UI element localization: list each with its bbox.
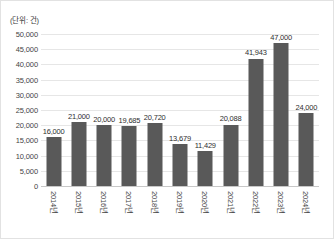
- y-axis-tick-label: 10,000: [4, 151, 38, 160]
- bar-value-label: 24,000: [295, 103, 317, 112]
- unit-label: (단위: 건): [10, 14, 39, 25]
- bar-slot: 20,088: [218, 34, 243, 186]
- bar-value-label: 47,000: [270, 33, 292, 42]
- bar-slot: 20,720: [142, 34, 167, 186]
- y-axis-tick-label: 50,000: [4, 30, 38, 39]
- x-axis-tick-label: 2015년: [73, 191, 84, 214]
- plot-area: 16,00021,00020,00019,68520,72013,67911,4…: [41, 34, 319, 186]
- y-axis-tick-label: 45,000: [4, 45, 38, 54]
- bar-slot: 19,685: [117, 34, 142, 186]
- x-tick-slot: 2021년: [218, 187, 243, 239]
- x-tick-slot: 2022년: [243, 187, 268, 239]
- bar-slot: 21,000: [66, 34, 91, 186]
- bar-value-label: 21,000: [68, 112, 90, 121]
- x-axis-tick-label: 2014년: [48, 191, 59, 214]
- x-tick-slot: 2014년: [41, 187, 66, 239]
- y-axis-tick-label: 20,000: [4, 121, 38, 130]
- x-tick-slot: 2024년: [294, 187, 319, 239]
- bar-value-label: 16,000: [43, 127, 65, 136]
- y-axis-tick-label: 30,000: [4, 90, 38, 99]
- bar-value-label: 13,679: [169, 134, 191, 143]
- bar[interactable]: [299, 113, 314, 186]
- bar[interactable]: [172, 144, 187, 186]
- x-axis-tick-label: 2016년: [99, 191, 110, 214]
- y-axis-tick-label: 40,000: [4, 60, 38, 69]
- bar-slot: 24,000: [294, 34, 319, 186]
- bar[interactable]: [223, 125, 238, 186]
- x-tick-slot: 2018년: [142, 187, 167, 239]
- x-tick-slot: 2019년: [167, 187, 192, 239]
- bar[interactable]: [274, 43, 289, 186]
- y-axis: 05,00010,00015,00020,00025,00030,00035,0…: [1, 34, 38, 186]
- x-axis-tick-label: 2018년: [149, 191, 160, 214]
- x-tick-slot: 2016년: [92, 187, 117, 239]
- y-axis-tick-label: 5,000: [4, 166, 38, 175]
- bar-value-label: 20,000: [93, 115, 115, 124]
- bar-value-label: 11,429: [195, 141, 216, 150]
- bar[interactable]: [248, 59, 263, 187]
- x-axis-tick-label: 2021년: [225, 191, 236, 214]
- x-axis-tick-label: 2024년: [301, 191, 312, 214]
- bar[interactable]: [198, 151, 213, 186]
- bar-slot: 13,679: [167, 34, 192, 186]
- y-axis-tick-label: 25,000: [4, 106, 38, 115]
- bar-slot: 47,000: [268, 34, 293, 186]
- x-axis: 2014년2015년2016년2017년2018년2019년2020년2021년…: [41, 187, 319, 239]
- y-axis-tick-label: 35,000: [4, 75, 38, 84]
- bar-slot: 16,000: [41, 34, 66, 186]
- bar-slot: 20,000: [92, 34, 117, 186]
- bar-value-label: 19,685: [119, 116, 141, 125]
- y-axis-tick-label: 15,000: [4, 136, 38, 145]
- x-axis-tick-label: 2019년: [174, 191, 185, 214]
- y-axis-tick-label: 0: [4, 182, 38, 191]
- bar-value-label: 41,943: [245, 48, 267, 57]
- x-axis-tick-label: 2020년: [200, 191, 211, 214]
- bar[interactable]: [147, 123, 162, 186]
- bar-chart-figure: (단위: 건) 05,00010,00015,00020,00025,00030…: [0, 0, 334, 239]
- x-tick-slot: 2017년: [117, 187, 142, 239]
- bar-value-label: 20,088: [220, 114, 242, 123]
- x-tick-slot: 2015년: [66, 187, 91, 239]
- x-tick-slot: 2020년: [193, 187, 218, 239]
- bar-slot: 41,943: [243, 34, 268, 186]
- bar[interactable]: [122, 126, 137, 186]
- bar[interactable]: [46, 137, 61, 186]
- x-axis-tick-label: 2022년: [250, 191, 261, 214]
- bar-slot: 11,429: [193, 34, 218, 186]
- x-axis-tick-label: 2023년: [276, 191, 287, 214]
- bar-value-label: 20,720: [144, 113, 166, 122]
- bar[interactable]: [71, 122, 86, 186]
- bar[interactable]: [97, 125, 112, 186]
- x-axis-tick-label: 2017년: [124, 191, 135, 214]
- x-tick-slot: 2023년: [268, 187, 293, 239]
